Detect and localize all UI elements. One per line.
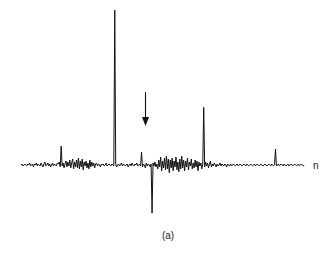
signal-trace xyxy=(21,10,304,213)
signal-plot xyxy=(0,0,336,256)
figure-container: n (a) xyxy=(0,0,336,256)
annotation-arrow-icon xyxy=(142,92,149,126)
signal-waveform-path xyxy=(21,10,304,213)
x-axis-label: n xyxy=(313,161,319,171)
arrow-head xyxy=(142,117,149,126)
figure-caption: (a) xyxy=(0,231,336,241)
